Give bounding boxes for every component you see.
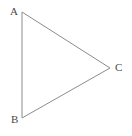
triangle-diagram: A B C bbox=[0, 0, 132, 136]
vertex-label-c: C bbox=[115, 62, 122, 73]
triangle-shape bbox=[0, 0, 132, 136]
triangle-outline bbox=[22, 12, 110, 118]
vertex-label-a: A bbox=[10, 6, 18, 17]
vertex-label-b: B bbox=[11, 114, 18, 125]
